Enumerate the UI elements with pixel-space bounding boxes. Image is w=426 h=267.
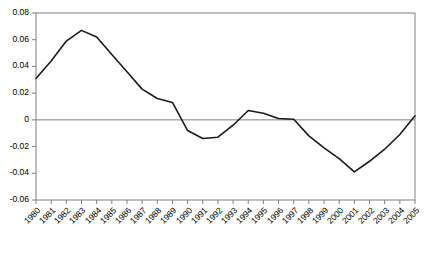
line-chart: 0.080.060.040.020-0.02-0.04-0.06 1980198… (0, 0, 426, 267)
y-tick-label: 0 (0, 115, 29, 124)
data-series-group (36, 30, 415, 172)
series-line (36, 30, 415, 172)
plot-frame (36, 13, 415, 200)
y-tick-label: 0.08 (0, 8, 29, 17)
plot-border (36, 13, 415, 200)
y-tick-label: -0.06 (0, 195, 29, 204)
y-tick-label: 0.04 (0, 61, 29, 70)
y-tick-label: -0.02 (0, 142, 29, 151)
y-tick-label: -0.04 (0, 168, 29, 177)
y-axis-ticks (32, 13, 36, 200)
y-tick-label: 0.06 (0, 35, 29, 44)
x-axis-ticks (36, 200, 415, 204)
y-tick-label: 0.02 (0, 88, 29, 97)
